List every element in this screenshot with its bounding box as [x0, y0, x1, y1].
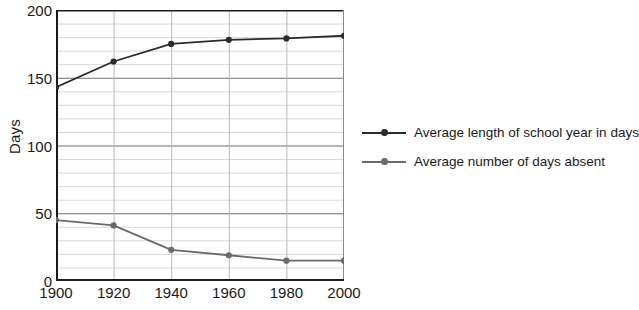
legend-item[interactable]: Average length of school year in days: [362, 118, 632, 147]
legend-dot-icon: [381, 158, 388, 165]
legend-marker-icon: [362, 155, 406, 169]
data-point-marker: [226, 37, 232, 43]
legend-dot-icon: [381, 129, 388, 136]
y-axis-tick-label: 100: [6, 138, 52, 153]
legend-item-label: Average length of school year in days: [406, 125, 639, 140]
data-point-marker: [56, 84, 59, 90]
series-line: [56, 36, 344, 87]
data-point-marker: [111, 58, 117, 64]
chart-legend: Average length of school year in daysAve…: [362, 118, 632, 176]
data-point-marker: [111, 222, 117, 228]
y-axis-tick-label: 200: [6, 3, 52, 18]
plot-area: [56, 10, 344, 281]
x-axis-tick-label: 1900: [26, 284, 86, 302]
chart-canvas: [56, 10, 344, 281]
x-axis-tick-labels: 190019201940196019802000: [0, 284, 635, 308]
series-1: [56, 33, 344, 91]
legend-marker-icon: [362, 126, 406, 140]
x-axis-tick-label: 2000: [314, 284, 374, 302]
data-point-marker: [56, 217, 59, 223]
x-axis-tick-label: 1920: [84, 284, 144, 302]
y-axis-tick-labels: 200150100500: [0, 0, 52, 310]
legend-item-label: Average number of days absent: [406, 154, 605, 169]
y-axis-tick-label: 150: [6, 70, 52, 85]
data-point-marker: [168, 41, 174, 47]
data-point-marker: [168, 247, 174, 253]
x-axis-tick-label: 1960: [199, 284, 259, 302]
data-point-marker: [341, 258, 344, 264]
data-point-marker: [226, 252, 232, 258]
legend-item[interactable]: Average number of days absent: [362, 147, 632, 176]
data-point-marker: [283, 35, 289, 41]
x-axis-tick-label: 1940: [141, 284, 201, 302]
y-axis-tick-label: 50: [6, 206, 52, 221]
data-point-marker: [283, 258, 289, 264]
x-axis-tick-label: 1980: [256, 284, 316, 302]
